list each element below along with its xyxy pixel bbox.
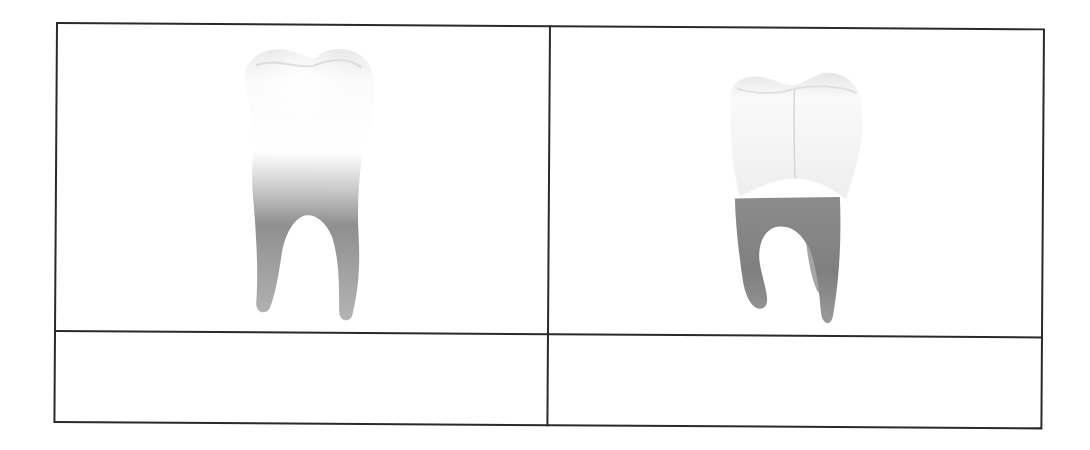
molar-tooth-two-roots-icon <box>56 24 549 333</box>
image-cell-right <box>549 27 1043 336</box>
molar-tooth-three-roots-icon <box>549 27 1043 336</box>
image-cell-left <box>56 24 549 333</box>
worksheet-table <box>53 22 1045 429</box>
label-cell-right[interactable] <box>548 335 1041 427</box>
label-cell-left[interactable] <box>55 332 547 424</box>
